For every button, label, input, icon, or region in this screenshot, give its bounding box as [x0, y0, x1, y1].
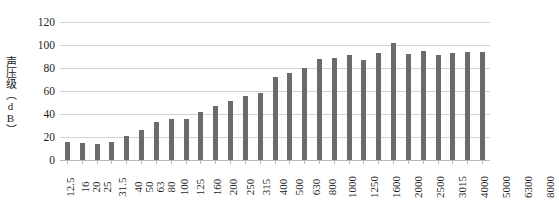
bar — [273, 77, 278, 160]
x-axis-tick-marks — [60, 160, 490, 164]
bar — [421, 51, 426, 160]
y-axis-tick-label: 0 — [49, 154, 55, 166]
x-axis-tick-slot — [386, 160, 401, 164]
x-axis-tick-mark — [186, 160, 187, 164]
bar-slot — [342, 22, 357, 160]
y-axis-tick-labels: 020406080100120 — [18, 0, 58, 216]
x-axis-tick-slot — [149, 160, 164, 164]
x-axis-tick-slot — [401, 160, 416, 164]
x-axis-label-slot: 25 — [101, 165, 112, 215]
bar-slot — [282, 22, 297, 160]
x-axis-tick-label: 5000 — [500, 176, 512, 198]
x-axis-tick-label: 200 — [227, 179, 239, 196]
x-axis-tick-mark — [215, 160, 216, 164]
x-axis-label-slot: 12.5 — [60, 165, 79, 215]
bar — [169, 119, 174, 160]
bar — [154, 122, 159, 160]
bar-slot — [238, 22, 253, 160]
x-axis-tick-mark — [82, 160, 83, 164]
x-axis-tick-label: 31.5 — [116, 177, 128, 196]
x-axis-tick-mark — [438, 160, 439, 164]
x-axis-tick-slot — [104, 160, 119, 164]
x-axis-label-slot: 160 — [209, 165, 226, 215]
x-axis: 12.516202531.540506380100125160200250315… — [60, 160, 490, 216]
x-axis-tick-slot — [90, 160, 105, 164]
x-axis-tick-slot — [416, 160, 431, 164]
bar-slot — [416, 22, 431, 160]
bar-slot — [371, 22, 386, 160]
x-axis-tick-slot — [431, 160, 446, 164]
bar-slot — [223, 22, 238, 160]
x-axis-tick-mark — [304, 160, 305, 164]
x-axis-tick-slot — [475, 160, 490, 164]
bar-slot — [90, 22, 105, 160]
x-axis-tick-slot — [282, 160, 297, 164]
bar — [465, 52, 470, 160]
x-axis-tick-labels: 12.516202531.540506380100125160200250315… — [60, 165, 490, 215]
bar — [302, 68, 307, 160]
x-axis-tick-slot — [134, 160, 149, 164]
x-axis-tick-mark — [408, 160, 409, 164]
bar — [258, 93, 263, 160]
bar — [139, 130, 144, 160]
plot-area — [60, 22, 490, 160]
bar — [213, 106, 218, 160]
x-axis-tick-label: 3015 — [456, 176, 468, 198]
x-axis-label-slot: 50 — [143, 165, 154, 215]
x-axis-tick-mark — [111, 160, 112, 164]
bar — [317, 59, 322, 160]
y-axis-tick-label: 80 — [44, 62, 56, 74]
x-axis-tick-label: 4000 — [478, 176, 490, 198]
x-axis-tick-mark — [260, 160, 261, 164]
bar — [391, 43, 396, 160]
bar — [450, 53, 455, 160]
x-axis-label-slot: 31.5 — [112, 165, 131, 215]
x-axis-tick-slot — [446, 160, 461, 164]
x-axis-tick-slot — [60, 160, 75, 164]
x-axis-label-slot: 2000 — [407, 165, 429, 215]
bar-slot — [149, 22, 164, 160]
x-axis-label-slot: 40 — [132, 165, 143, 215]
x-axis-label-slot: 200 — [225, 165, 242, 215]
x-axis-label-slot: 400 — [275, 165, 292, 215]
x-axis-tick-mark — [245, 160, 246, 164]
x-axis-tick-label: 125 — [194, 179, 206, 196]
x-axis-tick-slot — [253, 160, 268, 164]
x-axis-tick-label: 63 — [153, 182, 165, 193]
y-axis-tick-label: 20 — [44, 131, 56, 143]
x-axis-tick-slot — [193, 160, 208, 164]
y-axis-title: 声压级（dB） — [2, 30, 18, 160]
x-axis-tick-slot — [312, 160, 327, 164]
bar-slot — [268, 22, 283, 160]
x-axis-tick-slot — [223, 160, 238, 164]
x-axis-tick-mark — [230, 160, 231, 164]
bar — [332, 58, 337, 160]
x-axis-tick-label: 315 — [260, 179, 272, 196]
bar — [184, 119, 189, 160]
bar-slot — [60, 22, 75, 160]
bar-slot — [119, 22, 134, 160]
y-axis-tick-label: 40 — [44, 108, 56, 120]
bar — [80, 143, 85, 160]
x-axis-tick-mark — [289, 160, 290, 164]
x-axis-tick-label: 25 — [101, 182, 113, 193]
bar-slot — [401, 22, 416, 160]
bar-slot — [75, 22, 90, 160]
bar-slot — [164, 22, 179, 160]
bar-series — [60, 22, 490, 160]
x-axis-tick-label: 40 — [131, 182, 143, 193]
x-axis-tick-label: 6300 — [522, 176, 534, 198]
x-axis-tick-label: 400 — [277, 179, 289, 196]
x-axis-tick-label: 630 — [310, 179, 322, 196]
bar — [124, 136, 129, 160]
y-axis-tick-label: 100 — [38, 39, 55, 51]
bar — [287, 73, 292, 160]
bar-slot — [327, 22, 342, 160]
x-axis-tick-label: 12.5 — [64, 177, 76, 196]
x-axis-tick-slot — [238, 160, 253, 164]
x-axis-tick-mark — [126, 160, 127, 164]
bar-slot — [297, 22, 312, 160]
x-axis-tick-label: 500 — [293, 179, 305, 196]
x-axis-label-slot: 250 — [242, 165, 259, 215]
x-axis-tick-mark — [319, 160, 320, 164]
